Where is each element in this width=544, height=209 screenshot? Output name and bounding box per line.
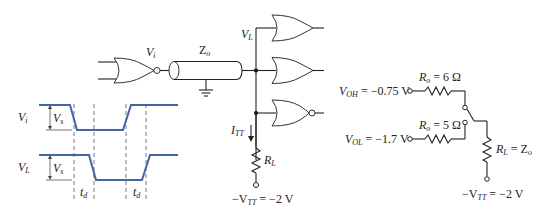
ro-low-label: Ro = 5 Ω <box>418 118 461 133</box>
driver-output-label: Vi <box>146 45 156 60</box>
input-swing-label: Vs <box>53 111 63 126</box>
receiver-or-gate-2 <box>272 58 324 84</box>
load-bus <box>254 28 276 160</box>
load-swing-label: Vs <box>53 161 63 176</box>
switch-contact-low <box>463 120 468 125</box>
delay-label-2: td <box>133 185 141 200</box>
driver-nor-gate <box>98 58 170 83</box>
load-voltage-label: VL <box>241 27 253 42</box>
voh-label: VOH = −0.75 V <box>339 84 410 99</box>
current-arrow-icon <box>248 125 254 142</box>
receiver-or-gate-1 <box>272 15 324 41</box>
termination-supply-label: −VTT = −2 V <box>232 192 294 207</box>
input-waveform-label: Vi <box>18 110 28 125</box>
receiver-nor-gate <box>272 100 324 126</box>
coax-transmission-line <box>169 62 256 97</box>
line-impedance-label: Zo <box>199 43 210 58</box>
switch-contact-high <box>463 105 468 110</box>
ro-high-label: Ro = 6 Ω <box>418 70 461 85</box>
delay-label-1: td <box>80 185 88 200</box>
termination-current-label: ITT <box>230 123 244 138</box>
equivalent-circuit <box>408 87 491 181</box>
switch-arm <box>467 109 474 121</box>
vol-label: VOL = −1.7 V <box>345 132 409 147</box>
load-waveform-label: VL <box>18 160 30 175</box>
ecl-transmission-line-diagram: Vi Zo VL <box>0 0 544 209</box>
rl-equivalent-label: RL = Zo <box>495 142 532 157</box>
vtt-equivalent-label: −VTT = −2 V <box>462 187 524 202</box>
termination-resistor-label: RL <box>263 153 276 168</box>
